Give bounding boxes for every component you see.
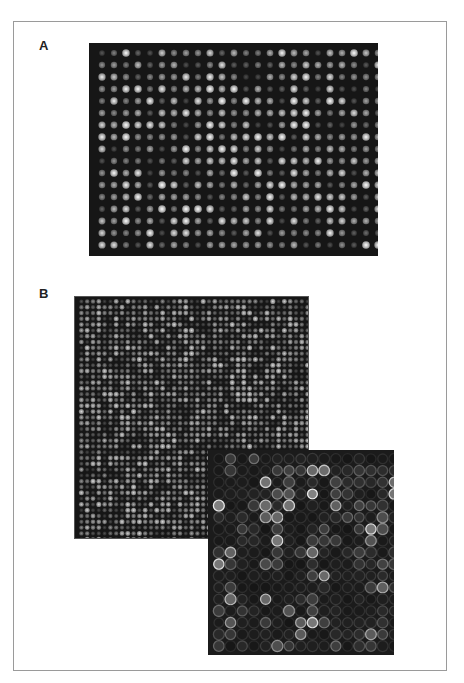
microarray-panel-a	[89, 43, 378, 256]
panel-label-b: B	[39, 286, 48, 301]
microarray-spots-a	[89, 43, 378, 256]
panel-label-a: A	[39, 38, 48, 53]
microarray-spots-b-inset	[208, 450, 394, 655]
microarray-panel-b-inset	[208, 450, 394, 655]
